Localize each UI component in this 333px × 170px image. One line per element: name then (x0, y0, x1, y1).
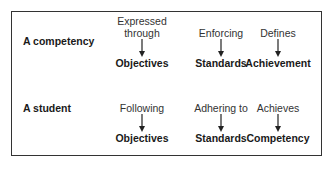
relation-target: Objectives (102, 57, 182, 69)
relation-verb: Expressed (102, 15, 182, 27)
relation-target: Competency (238, 132, 318, 144)
relation-target: Objectives (102, 132, 182, 144)
down-arrow-icon (274, 39, 282, 57)
relation-verb: Defines (238, 27, 318, 39)
down-arrow-icon (217, 39, 225, 57)
down-arrow-icon (138, 114, 146, 132)
down-arrow-icon (274, 114, 282, 132)
relation-achieves: Achieves Competency (238, 102, 318, 144)
relation-verb-line2: through (102, 27, 182, 39)
relation-defines: Defines Achievement (238, 27, 318, 69)
row-subject-competency: A competency (23, 35, 94, 47)
down-arrow-icon (138, 39, 146, 57)
relation-following: Following Objectives (102, 102, 182, 144)
row-subject-student: A student (23, 102, 71, 114)
relation-verb: Achieves (238, 102, 318, 114)
relation-verb: Following (102, 102, 182, 114)
down-arrow-icon (217, 114, 225, 132)
relation-expressed-through: Expressed through Objectives (102, 15, 182, 69)
relation-target: Achievement (238, 57, 318, 69)
